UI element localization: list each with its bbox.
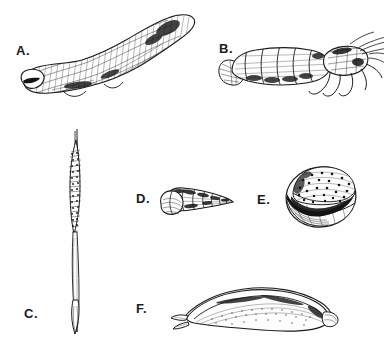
- figure-e-nerite-shell: [283, 163, 359, 231]
- figure-label-a: A.: [16, 44, 30, 57]
- figure-b-crustacean: [218, 28, 378, 100]
- figure-label-d: D.: [136, 192, 150, 205]
- figure-c-spindle-shell: [52, 128, 108, 336]
- figure-label-e: E.: [257, 193, 270, 206]
- figure-label-c: C.: [24, 307, 38, 320]
- figure-f-boring-clam: [170, 282, 345, 334]
- figure-a-sea-cucumber: [18, 6, 198, 106]
- figure-label-b: B.: [219, 42, 233, 55]
- specimen-plate: A.: [0, 0, 384, 345]
- figure-label-f: F.: [136, 302, 147, 315]
- figure-d-turret-shell: [155, 182, 235, 222]
